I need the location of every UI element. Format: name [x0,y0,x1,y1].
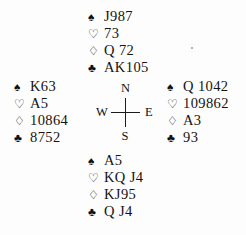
north-hearts-cards: 73 [101,25,119,42]
heart-icon: ♡ [88,26,101,43]
south-spades-row: ♠ A5 [88,152,143,169]
east-hearts-row: ♡ 109862 [167,95,229,112]
hand-south: ♠ A5 ♡ KQ J4 ♢ KJ95 ♣ Q J4 [88,152,143,220]
east-clubs-cards: 93 [180,129,198,146]
heart-icon: ♡ [167,96,180,113]
hand-west: ♠ K63 ♡ A5 ♢ 10864 ♣ 8752 [14,78,68,146]
west-diamonds-row: ♢ 10864 [14,112,68,129]
west-hearts-row: ♡ A5 [14,95,68,112]
west-spades-cards: K63 [27,78,56,95]
north-spades-row: ♠ J987 [88,8,149,25]
west-clubs-cards: 8752 [27,129,61,146]
south-clubs-row: ♣ Q J4 [88,203,143,220]
club-icon: ♣ [88,60,101,77]
south-clubs-cards: Q J4 [101,203,133,220]
west-hearts-cards: A5 [27,95,49,112]
club-icon: ♣ [167,130,180,147]
bridge-hand-diagram: ♠ J987 ♡ 73 ♢ Q 72 ♣ AK105 ♠ K63 ♡ A5 ♢ … [0,0,246,235]
spade-icon: ♠ [88,9,101,26]
north-diamonds-cards: Q 72 [101,42,134,59]
heart-icon: ♡ [88,170,101,187]
south-hearts-cards: KQ J4 [101,169,143,186]
north-clubs-row: ♣ AK105 [88,59,149,76]
north-hearts-row: ♡ 73 [88,25,149,42]
south-hearts-row: ♡ KQ J4 [88,169,143,186]
spade-icon: ♠ [88,153,101,170]
club-icon: ♣ [14,130,27,147]
scan-speck [191,47,193,49]
east-hearts-cards: 109862 [180,95,229,112]
west-clubs-row: ♣ 8752 [14,129,68,146]
west-spades-row: ♠ K63 [14,78,68,95]
heart-icon: ♡ [14,96,27,113]
south-spades-cards: A5 [101,152,123,169]
north-diamonds-row: ♢ Q 72 [88,42,149,59]
compass-label-north: N [121,82,130,95]
diamond-icon: ♢ [167,113,180,130]
north-clubs-cards: AK105 [101,59,149,76]
club-icon: ♣ [88,204,101,221]
compass-label-west: W [96,106,108,119]
south-diamonds-cards: KJ95 [101,186,136,203]
east-clubs-row: ♣ 93 [167,129,229,146]
east-diamonds-row: ♢ A3 [167,112,229,129]
spade-icon: ♠ [167,79,180,96]
hand-east: ♠ Q 1042 ♡ 109862 ♢ A3 ♣ 93 [167,78,229,146]
diamond-icon: ♢ [88,187,101,204]
east-diamonds-cards: A3 [180,112,202,129]
east-spades-cards: Q 1042 [180,78,229,95]
north-spades-cards: J987 [101,8,133,25]
diamond-icon: ♢ [14,113,27,130]
west-diamonds-cards: 10864 [27,112,68,129]
east-spades-row: ♠ Q 1042 [167,78,229,95]
south-diamonds-row: ♢ KJ95 [88,186,143,203]
compass-horizontal-axis [111,112,140,113]
hand-north: ♠ J987 ♡ 73 ♢ Q 72 ♣ AK105 [88,8,149,76]
compass-label-south: S [122,130,129,143]
compass-rose: N S W E [98,82,154,142]
spade-icon: ♠ [14,79,27,96]
compass-label-east: E [145,106,153,119]
diamond-icon: ♢ [88,43,101,60]
